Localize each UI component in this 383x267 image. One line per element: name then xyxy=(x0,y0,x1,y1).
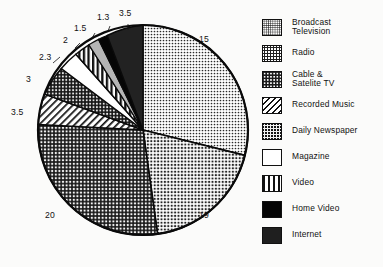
legend-swatch-medium-dots-icon xyxy=(262,45,282,62)
pie-svg xyxy=(0,0,260,267)
legend-label: Home Video xyxy=(292,204,339,213)
pie-value-label: 20 xyxy=(45,210,55,220)
legend-item-video[interactable]: Video xyxy=(262,174,314,192)
legend-label: Recorded Music xyxy=(292,100,355,109)
legend-label: Daily Newspaper xyxy=(292,126,358,135)
slice-cable-satelite-tv[interactable] xyxy=(38,125,158,236)
pie-value-label: 19 xyxy=(199,210,209,220)
pie-value-label: 3.5 xyxy=(11,107,24,117)
legend-label: Internet xyxy=(292,230,322,239)
pie-value-label: 2 xyxy=(63,35,68,45)
legend-swatch-dark-solid-icon xyxy=(262,227,282,244)
legend-swatch-white-icon xyxy=(262,149,282,166)
pie-chart-plot: 15 19 20 3.5 3 2.3 2 1.5 1.3 3.5 xyxy=(0,0,260,267)
pie-value-label: 2.3 xyxy=(39,52,52,62)
legend-item-home-video[interactable]: Home Video xyxy=(262,200,339,218)
legend-swatch-vertical-stripes-icon xyxy=(262,175,282,192)
legend-swatch-dark-grid-icon xyxy=(262,71,282,88)
legend-item-magazine[interactable]: Magazine xyxy=(262,148,330,166)
pie-value-label: 3 xyxy=(26,74,31,84)
pie-value-label: 1.3 xyxy=(97,12,110,22)
legend-label: Magazine xyxy=(292,152,330,161)
chart-legend: Broadcast Television Radio Cable & Satel… xyxy=(262,18,383,250)
pie-value-label: 15 xyxy=(199,34,209,44)
legend-swatch-fine-dots-icon xyxy=(262,19,282,36)
legend-swatch-black-icon xyxy=(262,201,282,218)
pie-chart-figure: 15 19 20 3.5 3 2.3 2 1.5 1.3 3.5 Broadca… xyxy=(0,0,383,267)
legend-item-recorded-music[interactable]: Recorded Music xyxy=(262,96,355,114)
legend-label: Broadcast Television xyxy=(292,18,331,36)
legend-label: Cable & Satelite TV xyxy=(292,70,334,88)
legend-swatch-diagonal-hatch-icon xyxy=(262,97,282,114)
pie-slices xyxy=(38,25,248,235)
pie-value-label: 3.5 xyxy=(119,8,132,18)
legend-label: Video xyxy=(292,178,314,187)
legend-item-daily-newspaper[interactable]: Daily Newspaper xyxy=(262,122,358,140)
legend-item-radio[interactable]: Radio xyxy=(262,44,315,62)
legend-item-internet[interactable]: Internet xyxy=(262,226,322,244)
legend-item-broadcast-television[interactable]: Broadcast Television xyxy=(262,18,331,36)
legend-swatch-dark-checker-icon xyxy=(262,123,282,140)
pie-value-label: 1.5 xyxy=(74,23,87,33)
legend-label: Radio xyxy=(292,48,315,57)
legend-item-cable-satelite-tv[interactable]: Cable & Satelite TV xyxy=(262,70,334,88)
